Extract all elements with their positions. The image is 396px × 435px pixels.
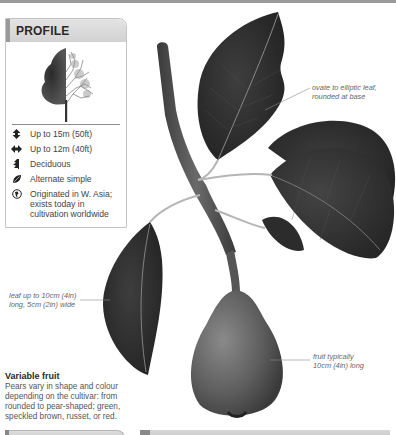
pear-stalk xyxy=(226,250,240,292)
top-leaf xyxy=(198,12,285,160)
callout-fruit-size: fruit typically 10cm (4in) long xyxy=(313,352,364,370)
partial-leaf xyxy=(262,217,304,251)
callout-leaf-shape: ovate to elliptic leaf, rounded at base xyxy=(312,83,377,101)
pear-fruit xyxy=(191,290,283,417)
next-panel-left xyxy=(5,430,125,435)
callout-leaf-size: leaf up to 10cm (4in) long, 5cm (2in) wi… xyxy=(9,291,76,309)
left-leaf xyxy=(103,222,163,375)
next-panel-right xyxy=(140,430,390,435)
variable-fruit-body: Pears vary in shape and colour depending… xyxy=(5,382,135,422)
variable-fruit-title: Variable fruit xyxy=(5,371,60,381)
